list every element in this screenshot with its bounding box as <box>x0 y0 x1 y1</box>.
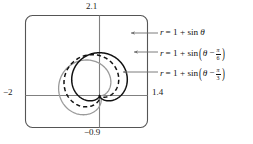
equation-3-theta: θ <box>203 69 208 78</box>
window-xmax-label: 1.4 <box>152 88 163 97</box>
equation-3-open-paren: ( <box>199 67 202 81</box>
window-xmin-label: −2 <box>3 88 13 97</box>
equation-label-curve-3: r = 1 + sin ( θ − π 3 ) <box>160 67 225 81</box>
equation-1-r: r <box>160 28 164 37</box>
equation-1-theta: θ <box>200 28 205 37</box>
equation-label-curve-1: r = 1 + sin θ <box>160 28 205 37</box>
equation-3-numerator: π <box>216 67 221 73</box>
equation-2-close-paren: ) <box>221 47 224 61</box>
equation-3-fraction: π 3 <box>216 67 221 81</box>
equation-label-curve-2: r = 1 + sin ( θ − π 6 ) <box>160 47 225 61</box>
equation-2-open-paren: ( <box>199 47 202 61</box>
equation-2-theta: θ <box>203 49 208 58</box>
equation-2-denominator: 6 <box>216 55 221 61</box>
equation-2-body: = 1 + sin <box>166 49 199 58</box>
window-ymin-label: −0.9 <box>84 128 100 137</box>
equation-2-r: r <box>160 49 164 58</box>
equation-3-minus: − <box>209 69 214 78</box>
equation-3-r: r <box>160 69 164 78</box>
window-ymax-label: 2.1 <box>86 2 97 11</box>
equation-3-body: = 1 + sin <box>166 69 199 78</box>
equation-3-close-paren: ) <box>221 67 224 81</box>
equation-1-body: = 1 + sin <box>166 28 199 37</box>
equation-2-numerator: π <box>216 47 221 53</box>
equation-3-denominator: 3 <box>216 75 221 81</box>
equation-2-minus: − <box>209 49 214 58</box>
equation-2-fraction: π 6 <box>216 47 221 61</box>
